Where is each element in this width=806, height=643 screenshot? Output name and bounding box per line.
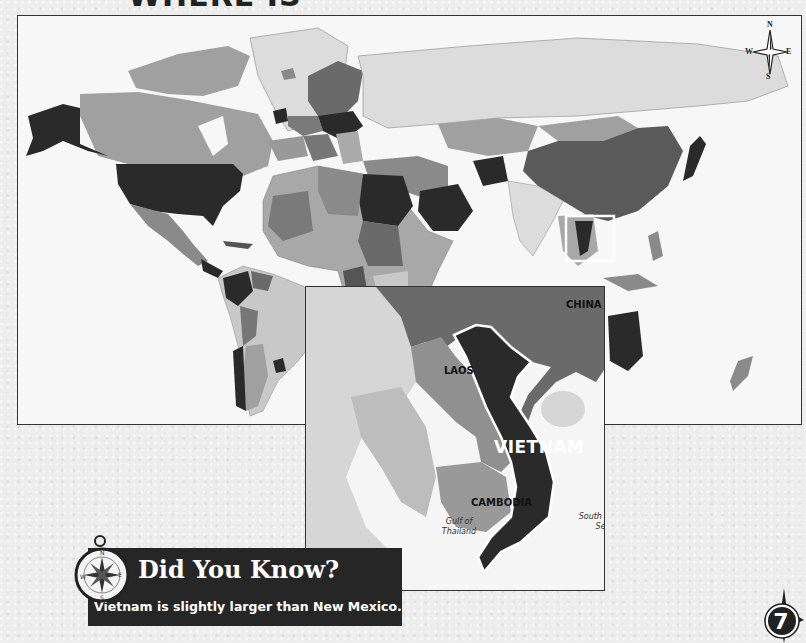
did-you-know-text: Vietnam is slightly larger than New Mexi… <box>94 599 402 614</box>
compass-icon: N S E W <box>74 533 136 607</box>
gulf-line2: Thailand <box>434 527 484 537</box>
label-laos: LAOS <box>444 365 474 376</box>
page-title-fragment: WHERE IS <box>128 0 302 13</box>
compass-s: S <box>766 72 770 81</box>
svg-text:E: E <box>118 571 122 578</box>
label-gulf-of-thailand: Gulf of Thailand <box>434 517 484 537</box>
sea-line2: Sea <box>573 522 605 532</box>
label-vietnam: VIETNAM <box>494 437 585 457</box>
label-china: CHINA <box>566 299 602 310</box>
sea-line1: South China <box>573 512 605 522</box>
compass-w: W <box>745 47 753 56</box>
svg-text:W: W <box>80 573 86 580</box>
page-number: 7 <box>771 609 791 634</box>
compass-n: N <box>767 20 773 29</box>
compass-rose-icon: N S E W <box>749 22 791 82</box>
did-you-know-title: Did You Know? <box>138 555 339 584</box>
label-cambodia: CAMBODIA <box>471 497 532 508</box>
gulf-line1: Gulf of <box>434 517 484 527</box>
vietnam-inset-map: CHINA LAOS VIETNAM CAMBODIA Gulf of Thai… <box>305 286 605 591</box>
compass-e: E <box>786 47 791 56</box>
svg-text:S: S <box>100 594 104 601</box>
svg-text:N: N <box>100 549 105 556</box>
label-south-china-sea: South China Sea <box>573 512 605 532</box>
